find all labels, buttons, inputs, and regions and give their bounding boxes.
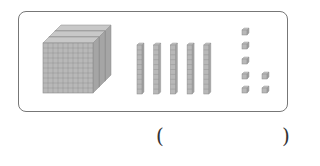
- tens-rod: [170, 43, 177, 94]
- ones-cube: [262, 86, 269, 93]
- ones-cube: [242, 42, 249, 49]
- answer-close-paren: ): [282, 124, 290, 148]
- tens-rod: [204, 43, 211, 94]
- answer-open-paren: (: [156, 124, 164, 148]
- tens-rod: [187, 43, 194, 94]
- ones-cube: [242, 72, 249, 79]
- hundreds-flat: [43, 37, 99, 93]
- ones-cube: [242, 86, 249, 93]
- ones-cube: [242, 28, 249, 35]
- ones-cube: [262, 72, 269, 79]
- tens-rod: [154, 43, 161, 94]
- answer-blank[interactable]: [172, 128, 280, 146]
- ones-cube: [242, 57, 249, 64]
- tens-rod: [137, 43, 144, 94]
